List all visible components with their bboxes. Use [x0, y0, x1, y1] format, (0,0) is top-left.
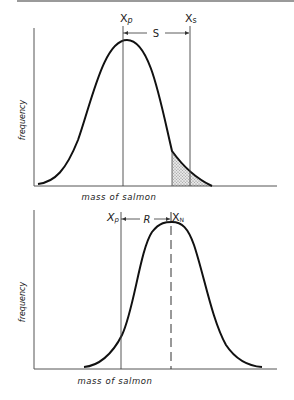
- distribution-curve: [84, 222, 262, 367]
- selection-response-diagram: S Xp Xs frequency mass of salmon R Xp: [0, 0, 294, 400]
- s-arrowhead-right-icon: [185, 31, 189, 35]
- top-panel: S Xp Xs frequency mass of salmon: [18, 12, 277, 202]
- marker-label-xp: Xp: [120, 12, 133, 25]
- marker-label-xp: Xp: [106, 211, 120, 224]
- marker-label-xs: Xs: [185, 12, 197, 25]
- bottom-panel: R Xp XN frequency mass of salmon: [18, 210, 277, 386]
- marker-label-xn: XN: [172, 211, 184, 224]
- distance-label-r: R: [144, 214, 151, 225]
- distance-label-s: S: [153, 28, 159, 39]
- distribution-curve: [38, 40, 212, 186]
- y-axis-label: frequency: [18, 100, 27, 141]
- r-arrowhead-right-icon: [166, 217, 170, 221]
- s-arrowhead-left-icon: [124, 31, 128, 35]
- r-arrowhead-left-icon: [122, 217, 126, 221]
- page-top-border: [17, 0, 294, 2]
- x-axis-label: mass of salmon: [81, 192, 156, 202]
- y-axis-label: frequency: [18, 282, 27, 323]
- x-axis-label: mass of salmon: [77, 376, 152, 386]
- selected-tail-shading: [172, 151, 212, 186]
